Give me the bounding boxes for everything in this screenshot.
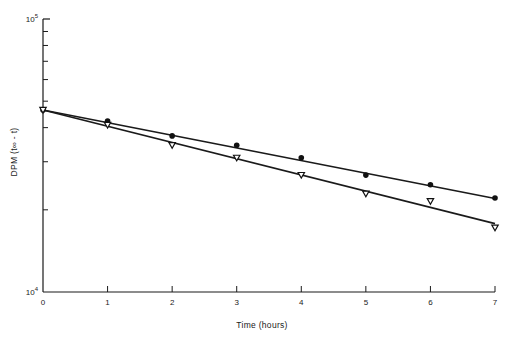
triangle-marker <box>298 173 304 179</box>
axes <box>43 19 495 292</box>
y-tick-label: 105 <box>26 13 39 24</box>
circle-marker <box>298 155 304 161</box>
triangle-marker <box>169 143 175 149</box>
x-tick-labels: 01234567 <box>41 298 498 307</box>
x-ticks <box>108 286 495 292</box>
y-tick-labels: 104105 <box>26 13 39 297</box>
triangle-marker <box>40 107 46 113</box>
x-tick-label: 6 <box>428 298 433 307</box>
y-minor-ticks <box>43 31 48 209</box>
data-markers <box>40 107 498 230</box>
chart: 01234567 104105 Time (hours) DPM (t∞ - t… <box>0 0 510 342</box>
x-tick-label: 1 <box>105 298 110 307</box>
x-axis-title: Time (hours) <box>236 320 287 330</box>
x-tick-label: 7 <box>493 298 498 307</box>
y-tick-label: 104 <box>26 286 39 297</box>
y-axis-title: DPM (t∞ - t) <box>9 128 19 177</box>
triangle-marker <box>363 191 369 197</box>
fit-line <box>43 110 495 224</box>
circle-marker <box>363 172 369 178</box>
x-tick-label: 5 <box>364 298 369 307</box>
circle-marker <box>234 142 240 148</box>
triangle-marker <box>427 199 433 205</box>
circle-marker <box>169 133 175 139</box>
fit-lines <box>43 110 495 224</box>
x-tick-label: 0 <box>41 298 46 307</box>
x-tick-label: 4 <box>299 298 304 307</box>
x-tick-label: 3 <box>234 298 239 307</box>
circle-marker <box>428 182 434 188</box>
triangle-marker <box>492 225 498 231</box>
x-tick-label: 2 <box>170 298 175 307</box>
circle-marker <box>492 195 498 201</box>
